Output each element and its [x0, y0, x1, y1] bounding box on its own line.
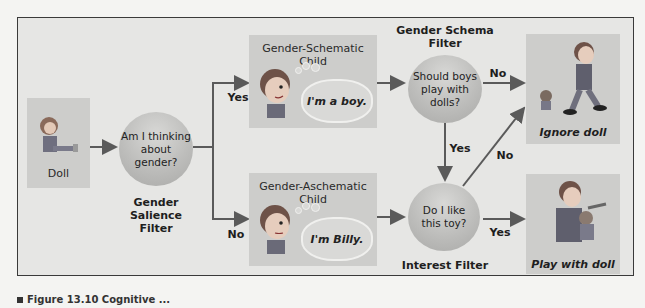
edge-label-interest-yes: Yes: [488, 226, 512, 239]
schema-filter-title: Gender Schema Filter: [395, 24, 495, 50]
interest-filter-title: Interest Filter: [400, 259, 490, 272]
play-with-doll-box: Play with doll: [526, 174, 620, 274]
salience-title-line1: Gender Salience: [108, 196, 204, 222]
boy-face-illustration: [255, 62, 295, 120]
edge-label-salience-yes: Yes: [226, 91, 250, 104]
boy-walking-illustration: [526, 40, 620, 120]
interest-question-line1: Do I like: [422, 204, 467, 217]
play-with-doll-label: Play with doll: [526, 258, 620, 271]
edge-label-interest-no: No: [495, 149, 515, 162]
doll-label: Doll: [27, 167, 90, 180]
interest-question-line2: this toy?: [422, 217, 467, 230]
ignore-doll-box: Ignore doll: [526, 34, 620, 144]
salience-question-line1: Am I thinking: [119, 130, 193, 143]
schema-title-line1: Gender Schema: [395, 24, 495, 37]
boy-face-illustration: [255, 198, 295, 256]
interest-filter-bubble: Do I like this toy?: [408, 183, 480, 251]
boy-holding-doll-illustration: [526, 178, 620, 256]
edge-label-schema-no: No: [488, 67, 508, 80]
schematic-child-box: Gender-Schematic Child I'm a boy.: [249, 35, 377, 128]
edge-label-salience-no: No: [226, 228, 246, 241]
schema-question-line1: Should boys: [408, 70, 482, 83]
schema-filter-bubble: Should boys play with dolls?: [408, 55, 482, 123]
schematic-thought-bubble: I'm a boy.: [301, 79, 373, 123]
schema-title-line2: Filter: [395, 37, 495, 50]
schema-question-line2: play with dolls?: [408, 83, 482, 109]
salience-title-line2: Filter: [108, 222, 204, 235]
aschematic-child-box: Gender-Aschematic Child I'm Billy.: [249, 173, 377, 266]
ignore-doll-label: Ignore doll: [526, 126, 620, 139]
doll-box: Doll: [27, 98, 90, 188]
caption-text: Figure 13.10 Cognitive ...: [27, 294, 170, 305]
salience-filter-title: Gender Salience Filter: [108, 196, 204, 235]
doll-illustration: [27, 112, 90, 172]
aschematic-thought-bubble: I'm Billy.: [301, 217, 373, 261]
salience-filter-bubble: Am I thinking about gender?: [119, 112, 193, 186]
figure-caption: Figure 13.10 Cognitive ...: [17, 294, 170, 305]
salience-question-line2: about gender?: [119, 143, 193, 169]
edge-label-schema-yes: Yes: [448, 142, 472, 155]
